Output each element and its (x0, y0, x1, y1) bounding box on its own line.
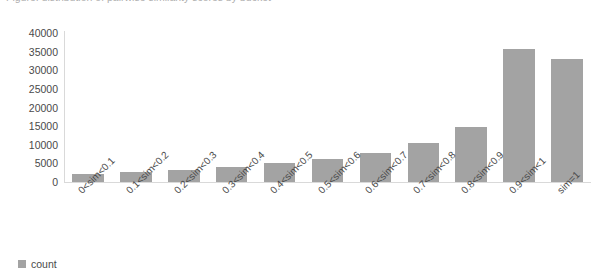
y-axis-tick-labels: 4000035000300002500020000150001000050000 (0, 0, 58, 279)
legend-swatch-count (18, 260, 26, 268)
y-axis-tick-label: 35000 (29, 46, 58, 57)
bar-slot (455, 33, 487, 182)
bar-slot (264, 33, 296, 182)
bar-slot (408, 33, 440, 182)
bar-slot (312, 33, 344, 182)
y-axis-tick-label: 15000 (29, 121, 58, 132)
legend-label-count: count (31, 258, 57, 270)
y-axis-tick-label: 10000 (29, 140, 58, 151)
bar-slot (551, 33, 583, 182)
y-axis-tick-label: 25000 (29, 84, 58, 95)
chart-title-cropped: Figure: distribution of pairwise similar… (6, 0, 436, 4)
y-axis-tick-label: 20000 (29, 102, 58, 113)
y-axis-tick-label: 30000 (29, 65, 58, 76)
chart-legend[interactable]: count (18, 258, 57, 270)
bar-slot (72, 33, 104, 182)
bar-series-count (64, 33, 591, 182)
bar-slot (168, 33, 200, 182)
bar-slot (120, 33, 152, 182)
y-axis-tick-label: 5000 (35, 158, 58, 169)
bar[interactable] (503, 49, 535, 182)
bar-chart: Figure: distribution of pairwise similar… (0, 0, 603, 279)
bar-slot (216, 33, 248, 182)
bar[interactable] (551, 59, 583, 182)
y-axis-tick-label: 0 (52, 177, 58, 188)
bar-slot (360, 33, 392, 182)
y-axis-tick-label: 40000 (29, 28, 58, 39)
bar-slot (503, 33, 535, 182)
